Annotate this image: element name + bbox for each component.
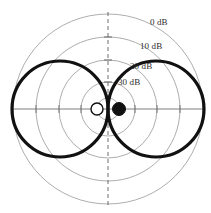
ring-label-0db: 0 dB — [150, 17, 168, 27]
polar-plot-canvas — [0, 0, 211, 213]
polar-pattern-figure: 0 dB 10 dB 20 dB 30 dB — [0, 0, 211, 213]
ring-label-30db: 30 dB — [118, 77, 140, 87]
ring-label-20db: 20 dB — [130, 61, 152, 71]
filled-element-marker — [113, 103, 126, 116]
hollow-element-marker — [91, 103, 103, 115]
ring-label-10db: 10 dB — [140, 41, 162, 51]
